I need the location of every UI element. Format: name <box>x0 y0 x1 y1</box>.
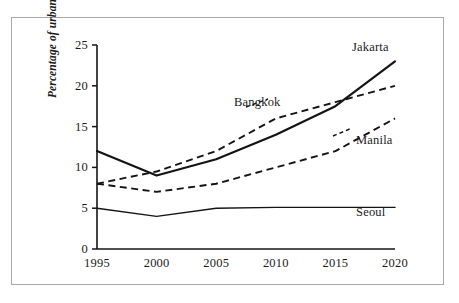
x-tick-label-2020: 2020 <box>370 256 420 271</box>
series-line-seoul <box>97 207 395 216</box>
y-tick-label-5: 5 <box>62 201 88 216</box>
y-axis-title: Percentage of urban income <box>46 0 58 98</box>
series-line-manila <box>97 118 395 191</box>
x-tick-label-2010: 2010 <box>251 256 301 271</box>
y-tick-label-10: 10 <box>62 160 88 175</box>
y-tick-label-15: 15 <box>62 120 88 135</box>
series-label-seoul: Seoul <box>356 205 385 220</box>
x-tick-label-2000: 2000 <box>132 256 182 271</box>
x-tick-label-2005: 2005 <box>191 256 241 271</box>
series-line-jakarta <box>97 61 395 175</box>
y-tick-label-0: 0 <box>62 242 88 257</box>
y-tick-label-20: 20 <box>62 79 88 94</box>
x-tick-label-1995: 1995 <box>72 256 122 271</box>
x-tick-label-2015: 2015 <box>310 256 360 271</box>
series-label-bangkok: Bangkok <box>234 95 281 110</box>
series-lines <box>97 61 395 216</box>
series-label-manila: Manila <box>356 133 393 148</box>
y-tick-label-25: 25 <box>62 38 88 53</box>
series-label-jakarta: Jakarta <box>352 40 389 55</box>
